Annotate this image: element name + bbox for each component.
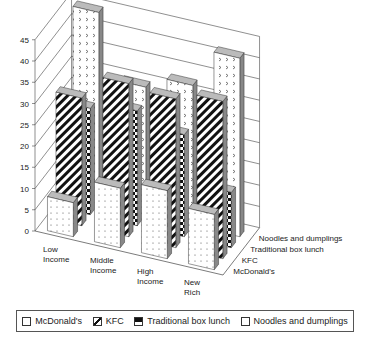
legend-label: KFC (106, 316, 124, 326)
svg-text:LowIncome: LowIncome (43, 245, 70, 264)
legend-swatch-checker-icon (134, 317, 143, 326)
legend-swatch-stripes-icon (93, 317, 102, 326)
legend-item-mcdonalds: McDonald's (22, 316, 82, 326)
svg-text:0: 0 (25, 227, 30, 236)
bar (94, 177, 124, 248)
chart-legend: McDonald's KFC Traditional box lunch Noo… (16, 310, 354, 332)
chart-bars (47, 1, 244, 270)
bar (188, 203, 218, 270)
svg-text:40: 40 (20, 57, 29, 66)
bar (47, 191, 77, 237)
svg-text:Traditional box lunch: Traditional box lunch (250, 245, 324, 254)
svg-text:35: 35 (20, 78, 29, 87)
legend-label: McDonald's (35, 316, 82, 326)
chart-3d-column: 051015202530354045LowIncomeMiddleIncomeH… (0, 0, 373, 310)
svg-text:KFC: KFC (242, 256, 258, 265)
svg-text:McDonald's: McDonald's (233, 267, 275, 276)
svg-text:45: 45 (20, 36, 29, 45)
svg-text:15: 15 (20, 163, 29, 172)
legend-swatch-dots-icon (22, 317, 31, 326)
svg-text:HighIncome: HighIncome (137, 267, 164, 286)
svg-text:5: 5 (25, 206, 30, 215)
svg-text:30: 30 (20, 100, 29, 109)
svg-text:25: 25 (20, 121, 29, 130)
legend-item-noodles-and-dumplings: Noodles and dumplings (241, 316, 348, 326)
bar (141, 179, 171, 259)
svg-text:NewRich: NewRich (184, 278, 200, 297)
legend-item-traditional-box-lunch: Traditional box lunch (134, 316, 230, 326)
legend-label: Traditional box lunch (147, 316, 230, 326)
legend-label: Noodles and dumplings (254, 316, 348, 326)
svg-text:20: 20 (20, 142, 29, 151)
legend-item-kfc: KFC (93, 316, 124, 326)
svg-text:10: 10 (20, 185, 29, 194)
svg-text:Noodles and dumplings: Noodles and dumplings (259, 234, 343, 243)
svg-text:MiddleIncome: MiddleIncome (90, 256, 117, 275)
legend-swatch-chevron-icon (241, 317, 250, 326)
